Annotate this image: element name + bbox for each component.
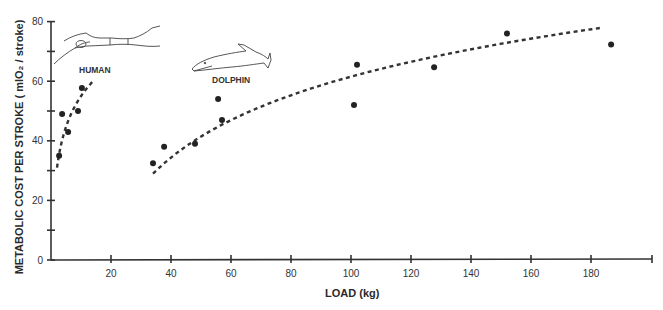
y-tick-label: 60	[32, 76, 44, 87]
x-tick-label: 140	[463, 268, 480, 279]
data-point-human	[75, 108, 81, 114]
data-points	[56, 31, 614, 167]
y-tick-label: 40	[32, 135, 44, 146]
y-tick-label: 0	[37, 255, 43, 266]
data-point-dolphin	[354, 62, 360, 68]
data-point-dolphin	[504, 31, 510, 37]
data-point-human	[65, 129, 71, 135]
data-point-dolphin	[150, 160, 156, 166]
data-point-dolphin	[219, 117, 225, 123]
data-point-dolphin	[351, 102, 357, 108]
x-tick-label: 80	[285, 268, 297, 279]
x-tick-label: 120	[403, 268, 420, 279]
data-point-dolphin	[215, 96, 221, 102]
human-label: HUMAN	[79, 65, 111, 75]
x-tick-label: 60	[225, 268, 237, 279]
trend-line-human	[57, 81, 93, 167]
chart: 020406080 20406080100120140160180 HUMAN …	[0, 0, 663, 310]
data-point-human	[79, 85, 85, 91]
y-axis-title: METABOLIC COST PER STROKE ( mlO₂ / strok…	[13, 19, 25, 274]
axes	[47, 22, 652, 263]
x-tick-label: 160	[523, 268, 540, 279]
y-tick-label: 20	[32, 195, 44, 206]
y-tick-label: 80	[32, 16, 44, 27]
x-tick-labels: 20406080100120140160180	[105, 268, 599, 279]
x-tick-label: 40	[165, 268, 177, 279]
dolphin-icon	[192, 44, 271, 71]
x-tick-label: 100	[343, 268, 360, 279]
x-tick-label: 180	[583, 268, 600, 279]
human-swimmer-icon	[54, 26, 160, 64]
x-axis-title: LOAD (kg)	[325, 287, 380, 299]
data-point-dolphin	[192, 141, 198, 147]
data-point-dolphin	[431, 64, 437, 70]
data-point-human	[59, 111, 65, 117]
trend-lines	[57, 28, 603, 174]
data-point-human	[56, 153, 62, 159]
data-point-dolphin	[608, 42, 614, 48]
y-tick-labels: 020406080	[32, 16, 44, 265]
data-point-dolphin	[161, 144, 167, 150]
dolphin-label: DOLPHIN	[212, 75, 250, 85]
x-tick-label: 20	[105, 268, 117, 279]
